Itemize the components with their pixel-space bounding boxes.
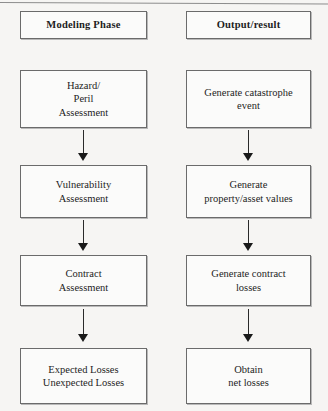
step-generate-catastrophe-event: Generate catastrophe event	[186, 70, 311, 128]
step-label: Obtain net losses	[224, 363, 273, 390]
step-hazard-peril-assessment: Hazard/ Peril Assessment	[20, 70, 147, 128]
arrow-down-icon-right-3	[241, 309, 255, 342]
step-label: Contract Assessment	[55, 267, 113, 294]
step-label: Generate catastrophe event	[200, 86, 296, 113]
arrow-down-icon-left-2	[76, 220, 90, 251]
step-label: Generate property/asset values	[200, 178, 296, 205]
step-label: Hazard/ Peril Assessment	[55, 79, 113, 120]
column-header-label: Modeling Phase	[42, 18, 124, 32]
step-contract-assessment: Contract Assessment	[20, 255, 147, 306]
step-label: Generate contract losses	[207, 267, 289, 294]
arrow-down-icon-right-2	[241, 220, 255, 251]
arrow-down-icon-left-3	[76, 309, 90, 342]
diagram-canvas: Modeling Phase Hazard/ Peril Assessment …	[0, 0, 328, 411]
step-label: Vulnerability Assessment	[52, 178, 115, 205]
step-generate-contract-losses: Generate contract losses	[186, 255, 311, 306]
top-divider-rule	[0, 2, 328, 4]
step-generate-property-asset-values: Generate property/asset values	[186, 165, 311, 218]
column-header-label: Output/result	[213, 18, 285, 32]
step-vulnerability-assessment: Vulnerability Assessment	[20, 165, 147, 218]
arrow-down-icon-left-1	[76, 130, 90, 161]
arrow-down-icon-right-1	[241, 130, 255, 161]
step-label: Expected Losses Unexpected Losses	[39, 363, 128, 390]
column-header-output-result: Output/result	[186, 11, 311, 39]
column-header-modeling-phase: Modeling Phase	[20, 11, 147, 39]
step-obtain-net-losses: Obtain net losses	[186, 348, 311, 404]
step-expected-unexpected-losses: Expected Losses Unexpected Losses	[20, 348, 147, 404]
